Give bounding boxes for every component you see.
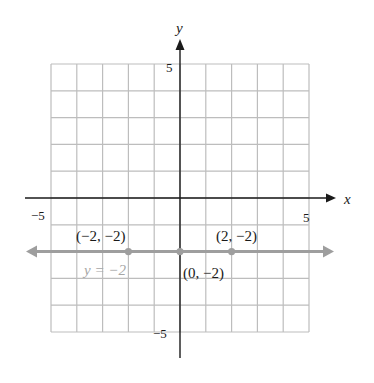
x-tick-label-min: −5 — [31, 208, 45, 223]
data-point — [176, 248, 183, 255]
y-tick-label-max: 5 — [166, 60, 173, 75]
right-arrow-icon — [323, 246, 334, 258]
point-label-neg2: (−2, −2) — [76, 228, 125, 245]
y-axis-arrow-icon — [176, 39, 185, 50]
x-tick-label-max: 5 — [303, 210, 310, 225]
y-axis-label: y — [174, 20, 183, 36]
x-axis-arrow-icon — [326, 194, 336, 203]
axes — [25, 39, 336, 358]
data-point — [228, 248, 235, 255]
coordinate-plane: x y −5 5 5 −5 (−2, −2) (0, −2) (2, −2) y… — [0, 0, 374, 383]
data-point — [125, 248, 132, 255]
left-arrow-icon — [26, 246, 37, 258]
point-label-0: (0, −2) — [183, 265, 224, 282]
y-tick-label-min: −5 — [153, 326, 167, 341]
point-label-2: (2, −2) — [216, 228, 257, 245]
x-axis-label: x — [343, 191, 351, 207]
equation-label: y = −2 — [82, 262, 126, 278]
labels-layer: x y −5 5 5 −5 (−2, −2) (0, −2) (2, −2) y… — [31, 20, 351, 341]
